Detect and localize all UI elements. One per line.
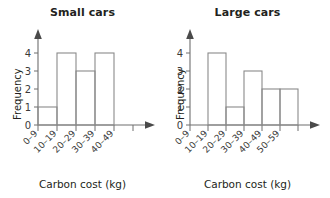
two-histogram-figure: Small cars Frequency 0 1 2 3 4 — [0, 0, 330, 198]
y-tick-label: 4 — [25, 48, 31, 59]
y-tick-label: 1 — [177, 102, 183, 113]
y-tick-marks — [34, 53, 38, 125]
y-tick-label: 2 — [177, 84, 183, 95]
bar — [208, 53, 226, 125]
x-axis-label-large-cars: Carbon cost (kg) — [165, 178, 330, 190]
x-tick-labels-small-cars: 0–9 10–19 20–29 30–39 40–49 — [21, 128, 116, 155]
plot-area-small-cars: 0 1 2 3 4 — [0, 0, 165, 198]
bar — [244, 71, 262, 125]
y-tick-label: 3 — [177, 66, 183, 77]
y-tick-labels: 0 1 2 3 4 — [25, 48, 31, 131]
y-tick-label: 4 — [177, 48, 183, 59]
plot-area-large-cars: 0 1 2 3 4 — [165, 0, 330, 198]
y-tick-label: 1 — [25, 102, 31, 113]
panel-large-cars: Large cars Frequency 0 1 2 3 4 — [165, 0, 330, 198]
x-axis-arrow-icon — [310, 121, 320, 129]
bar — [280, 89, 298, 125]
x-axis-arrow-icon — [145, 121, 155, 129]
y-tick-labels: 0 1 2 3 4 — [177, 48, 183, 131]
x-tick-labels-large-cars: 0–9 10–19 20–29 30–39 40–49 50–59 — [173, 128, 282, 155]
y-tick-label: 0 — [25, 120, 31, 131]
histogram-bars-large-cars — [208, 53, 298, 125]
y-tick-marks — [186, 53, 190, 125]
bar — [226, 107, 244, 125]
panel-small-cars: Small cars Frequency 0 1 2 3 4 — [0, 0, 165, 198]
y-tick-label: 0 — [177, 120, 183, 131]
bar — [262, 89, 280, 125]
bar — [57, 53, 76, 125]
y-tick-label: 2 — [25, 84, 31, 95]
y-axis-arrow-icon — [186, 29, 194, 39]
histogram-bars-small-cars — [38, 53, 114, 125]
y-axis-arrow-icon — [34, 29, 42, 39]
y-tick-label: 3 — [25, 66, 31, 77]
x-axis-label-small-cars: Carbon cost (kg) — [0, 178, 165, 190]
bar — [95, 53, 114, 125]
bar — [76, 71, 95, 125]
bar — [38, 107, 57, 125]
x-tick-marks — [190, 125, 298, 131]
